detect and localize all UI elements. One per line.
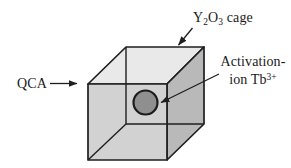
cage-label: Y2O3 cage [193, 10, 253, 26]
cage-arrow [179, 28, 193, 45]
activation-ion-circle [134, 91, 158, 115]
activation-ion-label-line1: Activation- [221, 54, 286, 69]
activation-ion-charge-superscript: 3+ [266, 72, 276, 82]
cage-label-suffix: cage [223, 10, 253, 25]
qca-label: QCA [17, 76, 47, 92]
activation-ion-label-line2: ion Tb3+ [229, 72, 277, 87]
activation-ion-label: Activation- ion Tb3+ [214, 53, 291, 89]
figure-canvas: QCA Y2O3 cage Activation- ion Tb3+ [0, 0, 291, 168]
cage-label-element-1: Y [193, 10, 203, 25]
cage-label-element-2: O [208, 10, 218, 25]
activation-ion-label-line2-text: ion Tb [229, 72, 266, 87]
qca-label-text: QCA [17, 76, 47, 91]
